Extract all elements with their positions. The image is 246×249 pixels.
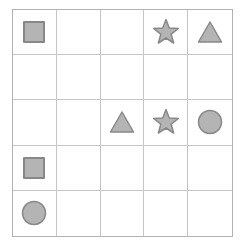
grid-cell[interactable] bbox=[57, 55, 101, 100]
star-icon bbox=[152, 108, 180, 136]
grid-cell[interactable] bbox=[13, 191, 57, 236]
grid-cell[interactable] bbox=[188, 10, 232, 55]
grid-cell[interactable] bbox=[13, 10, 57, 55]
grid-cell[interactable] bbox=[144, 146, 188, 191]
circle-icon bbox=[20, 199, 48, 227]
grid-cell[interactable] bbox=[13, 146, 57, 191]
square-icon bbox=[20, 18, 48, 46]
grid-cell[interactable] bbox=[144, 191, 188, 236]
grid-cell[interactable] bbox=[188, 55, 232, 100]
star-icon bbox=[152, 18, 180, 46]
grid-cell[interactable] bbox=[144, 100, 188, 145]
grid-cell[interactable] bbox=[57, 100, 101, 145]
square-icon bbox=[20, 154, 48, 182]
grid-cell[interactable] bbox=[13, 55, 57, 100]
puzzle-stage bbox=[0, 0, 246, 249]
grid-cell[interactable] bbox=[101, 146, 145, 191]
triangle-icon bbox=[196, 18, 224, 46]
grid-cell[interactable] bbox=[57, 10, 101, 55]
triangle-icon bbox=[108, 108, 136, 136]
shape-grid bbox=[12, 9, 233, 237]
grid-cell[interactable] bbox=[101, 191, 145, 236]
circle-icon bbox=[196, 108, 224, 136]
grid-cell[interactable] bbox=[57, 191, 101, 236]
grid-cell[interactable] bbox=[188, 191, 232, 236]
grid-cell[interactable] bbox=[101, 100, 145, 145]
grid-cell[interactable] bbox=[144, 55, 188, 100]
grid-cell[interactable] bbox=[13, 100, 57, 145]
grid-cell[interactable] bbox=[101, 55, 145, 100]
grid-cell[interactable] bbox=[188, 146, 232, 191]
grid-cell[interactable] bbox=[57, 146, 101, 191]
grid-cell[interactable] bbox=[101, 10, 145, 55]
grid-cell[interactable] bbox=[188, 100, 232, 145]
grid-cell[interactable] bbox=[144, 10, 188, 55]
